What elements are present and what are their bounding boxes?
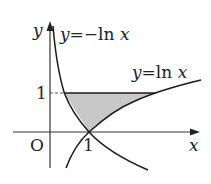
label-neg-ln: y=−ln x (59, 24, 130, 44)
x-axis-label: x (189, 135, 199, 155)
label-ln: y=ln x (131, 62, 188, 82)
shaded-region (64, 93, 156, 132)
x-tick-label: 1 (83, 135, 94, 155)
svg-text:y=−ln x: y=−ln x (59, 24, 130, 44)
y-tick-label: 1 (36, 83, 47, 103)
svg-text:y=ln x: y=ln x (131, 62, 188, 82)
y-axis-arrow-icon (47, 21, 54, 31)
origin-label: O (30, 135, 44, 155)
ln-area-diagram: y O 1 1 x y=−ln x y=ln x (0, 0, 211, 184)
y-axis-label: y (32, 20, 43, 40)
